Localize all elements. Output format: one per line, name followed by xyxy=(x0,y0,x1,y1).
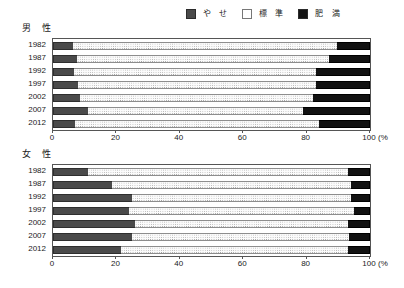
year-label: 1992 xyxy=(0,193,50,201)
bar-row xyxy=(53,233,370,241)
bar-row xyxy=(53,168,370,176)
legend-label-obese: 肥 満 xyxy=(315,10,342,18)
axis-tick-label: 20 xyxy=(111,260,120,268)
bar-segment xyxy=(348,220,370,228)
year-label: 1987 xyxy=(0,180,50,188)
bar-row xyxy=(53,42,370,50)
bar-segment xyxy=(88,168,348,176)
chart-figure: や せ 標 準 肥 満 男 性 198219871992199720022007… xyxy=(0,0,404,288)
bar-row xyxy=(53,68,370,76)
normal-swatch-icon xyxy=(242,9,252,19)
year-labels-female: 1982198719921997200220072012 xyxy=(0,164,50,255)
x-axis-male: 020406080100(% xyxy=(52,130,371,146)
year-label: 2007 xyxy=(0,106,50,114)
bar-segment xyxy=(88,107,304,115)
legend-entry-thin: や せ xyxy=(186,9,230,19)
bar-segment xyxy=(349,233,370,241)
axis-tick-label: 60 xyxy=(238,134,247,142)
year-labels-male: 1982198719921997200220072012 xyxy=(0,38,50,129)
bar-segment xyxy=(77,55,329,63)
axis-tick-label: 80 xyxy=(301,134,310,142)
axis-tick-label: 100 xyxy=(362,134,375,142)
bar-segment xyxy=(303,107,370,115)
bar-segment xyxy=(329,55,370,63)
year-label: 1997 xyxy=(0,206,50,214)
year-label: 1982 xyxy=(0,167,50,175)
plot-area-female xyxy=(52,164,371,257)
axis-tick-label: 20 xyxy=(111,134,120,142)
bar-segment xyxy=(316,81,370,89)
legend-entry-normal: 標 準 xyxy=(242,9,286,19)
panel-title-female: 女 性 xyxy=(22,150,55,159)
year-label: 1992 xyxy=(0,67,50,75)
bar-segment xyxy=(53,207,129,215)
bar-segment xyxy=(348,246,370,254)
bar-segment xyxy=(354,207,370,215)
bar-row xyxy=(53,81,370,89)
bar-segment xyxy=(53,120,75,128)
bar-row xyxy=(53,246,370,254)
x-axis-female: 020406080100(% xyxy=(52,256,371,272)
bar-segment xyxy=(121,246,348,254)
bar-segment xyxy=(351,194,370,202)
bar-segment xyxy=(316,68,370,76)
bar-row xyxy=(53,94,370,102)
year-label: 1982 xyxy=(0,41,50,49)
axis-tick-label: 0 xyxy=(50,260,54,268)
bar-segment xyxy=(129,207,354,215)
bar-segment xyxy=(53,168,88,176)
bar-segment xyxy=(313,94,370,102)
bar-rows-male xyxy=(53,39,370,130)
bar-segment xyxy=(53,107,88,115)
bar-segment xyxy=(53,181,112,189)
bar-segment xyxy=(337,42,370,50)
axis-tick-label: 100 xyxy=(362,260,375,268)
panel-title-male: 男 性 xyxy=(22,24,55,33)
bar-segment xyxy=(132,233,349,241)
bar-row xyxy=(53,207,370,215)
bar-segment xyxy=(53,68,74,76)
obese-swatch-icon xyxy=(298,9,308,19)
bar-segment xyxy=(53,233,132,241)
year-label: 1997 xyxy=(0,80,50,88)
bar-segment xyxy=(78,81,316,89)
bar-segment xyxy=(53,220,135,228)
bar-segment xyxy=(351,181,370,189)
axis-tick-label: 0 xyxy=(50,134,54,142)
axis-unit-label: (% xyxy=(378,260,388,268)
year-label: 2012 xyxy=(0,119,50,127)
year-label: 2002 xyxy=(0,93,50,101)
bar-row xyxy=(53,55,370,63)
axis-tick-label: 60 xyxy=(238,260,247,268)
axis-tick-label: 80 xyxy=(301,260,310,268)
bar-segment xyxy=(319,120,370,128)
bar-segment xyxy=(132,194,351,202)
year-label: 1987 xyxy=(0,54,50,62)
legend-entry-obese: 肥 満 xyxy=(298,9,342,19)
chart-legend: や せ 標 準 肥 満 xyxy=(186,9,343,19)
bar-row xyxy=(53,220,370,228)
year-label: 2002 xyxy=(0,219,50,227)
bar-segment xyxy=(75,120,319,128)
axis-tick-label: 40 xyxy=(174,134,183,142)
bar-row xyxy=(53,194,370,202)
bar-segment xyxy=(135,220,347,228)
plot-area-male xyxy=(52,38,371,131)
bar-segment xyxy=(74,68,317,76)
bar-segment xyxy=(348,168,370,176)
bar-row xyxy=(53,120,370,128)
thin-swatch-icon xyxy=(186,9,196,19)
bar-segment xyxy=(53,246,121,254)
bar-segment xyxy=(53,81,78,89)
bar-segment xyxy=(112,181,351,189)
bar-row xyxy=(53,181,370,189)
year-label: 2007 xyxy=(0,232,50,240)
bar-segment xyxy=(80,94,313,102)
bar-segment xyxy=(53,42,73,50)
legend-label-thin: や せ xyxy=(203,10,230,18)
axis-unit-label: (% xyxy=(378,134,388,142)
bar-segment xyxy=(73,42,337,50)
bar-segment xyxy=(53,194,132,202)
year-label: 2012 xyxy=(0,245,50,253)
legend-label-normal: 標 準 xyxy=(259,10,286,18)
